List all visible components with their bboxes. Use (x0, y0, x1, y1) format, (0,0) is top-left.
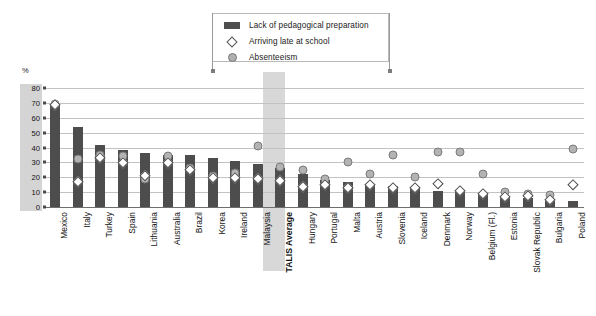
absenteeism-marker (343, 158, 352, 167)
y-axis-tick-mark (43, 101, 46, 104)
bar (253, 164, 263, 207)
chart-legend: Lack of pedagogical preparation Arriving… (212, 13, 389, 62)
diamond-marker-icon (221, 38, 243, 46)
bar (50, 104, 60, 207)
legend-item-bar: Lack of pedagogical preparation (221, 18, 382, 33)
x-axis-category-label: Slovenia (397, 212, 407, 245)
x-axis-category-label: Malaysia (262, 212, 272, 245)
x-axis-category-label: Ireland (239, 212, 249, 238)
absenteeism-marker (456, 147, 465, 156)
absenteeism-marker (568, 145, 577, 154)
bar (73, 127, 83, 207)
absenteeism-marker (73, 155, 82, 164)
y-axis-tick-mark (43, 116, 46, 119)
legend-label-0: Lack of pedagogical preparation (249, 21, 369, 30)
gridline (44, 118, 584, 119)
legend-item-diamond: Arriving late at school (221, 34, 382, 49)
x-axis-category-label: Spain (127, 212, 137, 234)
gridline (44, 148, 584, 149)
x-axis-category-label: Bulgaria (554, 212, 564, 243)
arriving-late-marker (432, 178, 443, 189)
x-axis-category-label: Mexico (59, 212, 69, 239)
absenteeism-marker (298, 165, 307, 174)
x-axis-category-label: Estonia (509, 212, 519, 240)
absenteeism-marker (276, 162, 285, 171)
y-axis-tick-label: 80 (20, 84, 40, 93)
x-axis-category-label: Malta (352, 212, 362, 233)
y-axis-tick-label: 0 (20, 203, 40, 212)
y-axis-tick-mark (43, 176, 46, 179)
x-axis-category-label: Iceland (419, 212, 429, 239)
gridline (44, 88, 584, 89)
absenteeism-marker (478, 170, 487, 179)
x-axis-category-label: TALIS Average (284, 212, 294, 273)
x-axis-category-label: Brazil (194, 212, 204, 233)
y-axis-tick-mark (43, 146, 46, 149)
plot-area (44, 88, 584, 207)
absenteeism-marker (366, 170, 375, 179)
y-axis-tick-label: 60 (20, 113, 40, 122)
x-axis-category-label: Turkey (104, 212, 114, 238)
x-axis-category-label: Lithuania (149, 212, 159, 246)
y-axis-tick-label: 30 (20, 158, 40, 167)
x-axis-category-label: Italy (82, 212, 92, 228)
gridline (44, 103, 584, 104)
bar (433, 191, 443, 207)
absenteeism-marker (388, 150, 397, 159)
y-axis-unit-label: % (22, 66, 29, 75)
y-axis-tick-mark (43, 206, 46, 209)
arriving-late-marker (567, 179, 578, 190)
circle-marker-icon (221, 53, 243, 62)
y-axis-tick-mark (43, 191, 46, 194)
legend-pointer-left-icon (212, 13, 213, 71)
y-axis-tick-label: 40 (20, 143, 40, 152)
bar-swatch-icon (221, 22, 243, 29)
absenteeism-marker (433, 147, 442, 156)
x-axis-category-label: Slovak Republic (532, 212, 542, 273)
legend-label-2: Absenteeism (249, 53, 297, 62)
y-axis-tick-label: 70 (20, 98, 40, 107)
x-axis-line (44, 207, 584, 208)
legend-label-1: Arriving late at school (249, 37, 330, 46)
x-axis-category-label: Portugal (329, 212, 339, 244)
bar (185, 155, 195, 207)
legend-item-circle: Absenteeism (221, 50, 382, 65)
y-axis-tick-label: 10 (20, 188, 40, 197)
y-axis-tick-label: 50 (20, 128, 40, 137)
x-axis-category-label: Belgium (Fl.) (487, 212, 497, 260)
x-axis-category-label: Austria (374, 212, 384, 238)
legend-pointer-right-icon (389, 13, 390, 71)
absenteeism-marker (253, 142, 262, 151)
x-axis-category-label: Korea (217, 212, 227, 235)
x-axis-category-label: Norway (464, 212, 474, 241)
x-axis-category-label: Australia (172, 212, 182, 245)
gridline (44, 133, 584, 134)
x-axis-category-label: Denmark (442, 212, 452, 246)
y-axis-tick-mark (43, 131, 46, 134)
bar (275, 168, 285, 207)
chart-page: Lack of pedagogical preparation Arriving… (0, 0, 596, 316)
y-axis-tick-mark (43, 161, 46, 164)
y-axis-tick-label: 20 (20, 173, 40, 182)
absenteeism-marker (411, 173, 420, 182)
x-axis-category-label: Hungary (307, 212, 317, 244)
x-axis-category-label: Poland (577, 212, 587, 238)
y-axis-tick-mark (43, 87, 46, 90)
